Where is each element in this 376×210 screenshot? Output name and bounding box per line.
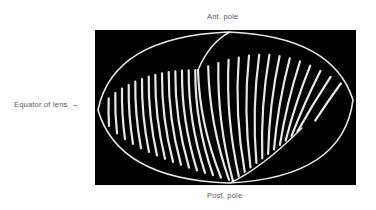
lens-fiber-pattern bbox=[95, 30, 356, 185]
arrow-right-icon: → bbox=[71, 100, 79, 109]
lens-fiber-photograph bbox=[95, 30, 356, 185]
anterior-pole-label: Ant. pole bbox=[207, 12, 238, 21]
equator-label-text: Equator of lens bbox=[14, 100, 67, 109]
equator-label: Equator of lens→ bbox=[14, 100, 79, 109]
posterior-pole-label: Post. pole bbox=[207, 191, 242, 200]
